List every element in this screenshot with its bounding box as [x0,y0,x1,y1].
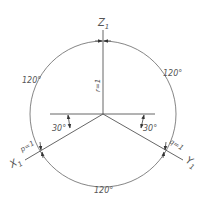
y-axis-label: Y1 [183,154,199,171]
right-120-label: 120° [163,69,182,78]
left-30-label: 30° [52,124,66,133]
x-coefficient-label: p=1 [18,139,36,154]
z-coefficient-label: r=1 [94,79,102,92]
right-30-label: 30° [143,124,157,133]
x-axis-line [25,114,103,160]
y-coefficient-label: q=1 [168,138,185,152]
x-circle-arrow-up [40,142,41,150]
x-circle-arrow-down [42,152,43,158]
bottom-120-label: 120° [94,186,113,195]
isometric-axes-diagram: Z1 r=1 X1 p=1 Y1 q=1 120° 120° 120° 30° … [0,0,212,198]
left-120-label: 120° [22,76,41,85]
y-circle-arrow-up [165,142,166,150]
y-circle-arrow-down [163,152,164,158]
z-axis-label: Z1 [97,17,109,31]
x-axis-label: X1 [7,155,25,173]
left-30-angle-arrow [68,115,70,128]
